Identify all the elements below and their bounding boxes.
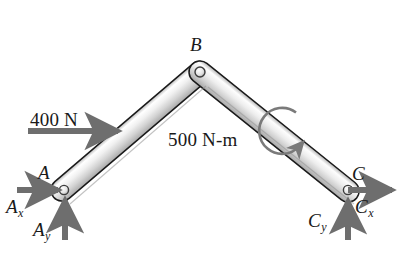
reaction-ay-label: Ay [33, 220, 50, 242]
pin-joint-b [195, 67, 205, 77]
reaction-ay-base: A [33, 219, 45, 240]
joint-b-label: B [190, 35, 202, 54]
reaction-cy-base: C [308, 210, 321, 231]
reaction-cy-subscript: y [321, 220, 326, 234]
reaction-ay-subscript: y [45, 229, 50, 243]
pin-a-circle [59, 185, 68, 194]
reaction-ax-label: Ax [6, 197, 23, 219]
reaction-cx-subscript: x [368, 206, 373, 220]
applied-moment-label: 500 N-m [168, 130, 237, 149]
joint-c-label: C [352, 164, 365, 183]
reaction-cy-label: Cy [308, 211, 327, 233]
reaction-ax-base: A [6, 196, 18, 217]
reaction-cx-base: C [355, 196, 368, 217]
frame-free-body-diagram: 400 N 500 N-m A B C Ax Ay Cx Cy [0, 0, 405, 253]
applied-force-label: 400 N [30, 110, 78, 129]
pin-joint-a [59, 185, 68, 194]
reaction-ax-subscript: x [18, 206, 23, 220]
joint-a-label: A [38, 163, 50, 182]
reaction-cx-label: Cx [355, 197, 374, 219]
pin-b-circle [195, 67, 205, 77]
